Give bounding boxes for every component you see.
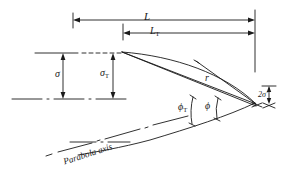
geometry-drawing xyxy=(0,0,290,189)
angle-arc-phiT xyxy=(191,97,193,124)
parabola-axis-line xyxy=(46,116,188,156)
label-2-sigma-prime: 2σ' xyxy=(258,90,268,99)
label-L-T: LT xyxy=(150,25,160,37)
label-sigma-T-subscript: T xyxy=(105,72,109,79)
label-r: r xyxy=(205,72,209,83)
label-sigma-T: σT xyxy=(100,67,109,79)
label-L-T-subscript: T xyxy=(156,30,160,37)
arrowhead-L-right xyxy=(248,18,255,23)
label-sigma: σ xyxy=(55,68,60,79)
label-L: L xyxy=(144,10,150,22)
label-phi: ϕ xyxy=(205,100,210,111)
arrowhead-sigmaT-bottom xyxy=(111,92,116,99)
ray-truncated-to-focus xyxy=(122,52,256,106)
arrowhead-sigmaT-top xyxy=(111,53,116,60)
figure-canvas: L LT σ σT r ϕT ϕ 2σ' Parabola axis xyxy=(0,0,290,189)
arrowhead-sigma-top xyxy=(61,53,66,60)
angle-arc-phi xyxy=(216,98,218,119)
arrowhead-sigma-bottom xyxy=(61,92,66,99)
label-phi-T: ϕT xyxy=(178,101,187,113)
tick-upper-intersection xyxy=(194,60,199,63)
label-phi-T-subscript: T xyxy=(183,106,187,113)
arrowhead-LT-left xyxy=(123,31,130,36)
arrowhead-LT-right xyxy=(248,31,255,36)
arrowhead-L-left xyxy=(73,18,80,23)
